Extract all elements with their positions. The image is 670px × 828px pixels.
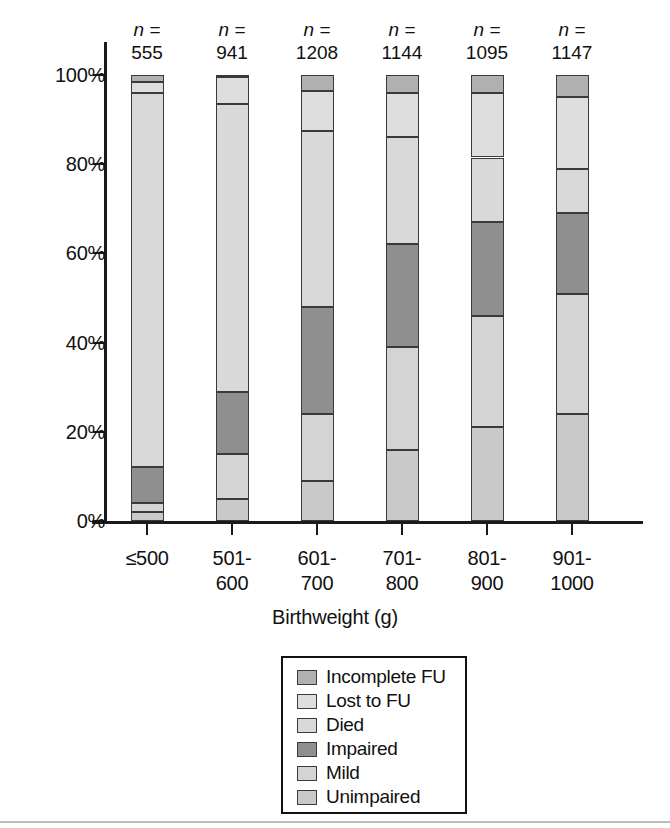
bar-column[interactable] [301,75,334,521]
y-tick-label: 20% [41,420,105,443]
x-axis-line [92,521,643,524]
legend-swatch-icon [297,766,317,781]
bar-column[interactable] [216,75,249,521]
bar-segment-impaired[interactable] [386,244,419,347]
bar-segment-lost-to-fu[interactable] [131,82,164,93]
sample-size-prefix: n = [187,18,277,41]
sample-size-prefix: n = [527,18,617,41]
x-axis-label: ≤500 [102,546,192,571]
bar-segment-lost-to-fu[interactable] [556,97,589,168]
bar-segment-unimpaired[interactable] [556,414,589,521]
bar-segment-died[interactable] [301,131,334,307]
bar-segment-mild[interactable] [131,503,164,512]
x-axis-label-line1: ≤500 [102,546,192,571]
bar-segment-impaired[interactable] [301,307,334,414]
x-axis-label: 601-700 [272,546,362,596]
bar-column[interactable] [471,75,504,521]
x-axis-label-line2: 600 [187,571,277,596]
y-tick-label: 40% [41,331,105,354]
sample-size-label: n =1208 [272,18,362,64]
bar-segment-died[interactable] [471,158,504,223]
legend-item-unimpaired[interactable]: Unimpaired [297,785,465,809]
sample-size-prefix: n = [357,18,447,41]
bar-segment-died[interactable] [131,93,164,468]
bar-segment-incomplete-fu[interactable] [556,75,589,97]
bar-segment-impaired[interactable] [471,222,504,316]
y-axis-line [104,42,107,523]
sample-size-prefix: n = [102,18,192,41]
x-axis-label: 701-800 [357,546,447,596]
x-axis-label: 901-1000 [527,546,617,596]
y-tick-label: 0% [41,510,105,533]
legend-item-incomplete-fu[interactable]: Incomplete FU [297,665,465,689]
legend-swatch-icon [297,718,317,733]
bar-segment-unimpaired[interactable] [301,481,334,521]
x-axis-label: 801-900 [442,546,532,596]
bar-column[interactable] [386,75,419,521]
legend-item-impaired[interactable]: Impaired [297,737,465,761]
bar-segment-lost-to-fu[interactable] [471,93,504,158]
legend-item-lost-to-fu[interactable]: Lost to FU [297,689,465,713]
legend-item-label: Impaired [326,738,398,760]
x-axis-label-line1: 901- [527,546,617,571]
legend-item-label: Mild [326,762,360,784]
sample-size-value: 941 [187,41,277,64]
x-tick [401,523,403,535]
sample-size-label: n =555 [102,18,192,64]
legend: Incomplete FULost to FUDiedImpairedMildU… [281,656,467,814]
bar-segment-mild[interactable] [301,414,334,481]
bar-segment-incomplete-fu[interactable] [131,75,164,82]
stacked-bar-chart-figure: 0%20%40%60%80%100% n =555n =941n =1208n … [0,0,670,828]
y-tick-label: 80% [41,153,105,176]
sample-size-value: 1147 [527,41,617,64]
bar-segment-impaired[interactable] [131,467,164,503]
legend-item-label: Unimpaired [326,786,420,808]
bar-segment-unimpaired[interactable] [386,450,419,521]
sample-size-prefix: n = [272,18,362,41]
bar-column[interactable] [556,75,589,521]
bar-segment-lost-to-fu[interactable] [301,91,334,131]
bar-segment-unimpaired[interactable] [131,512,164,521]
bar-segment-lost-to-fu[interactable] [216,77,249,104]
x-axis-label-line1: 501- [187,546,277,571]
bar-segment-unimpaired[interactable] [216,499,249,521]
bar-segment-incomplete-fu[interactable] [216,75,249,77]
sample-size-value: 1144 [357,41,447,64]
bar-segment-unimpaired[interactable] [471,427,504,521]
x-tick [231,523,233,535]
x-tick [486,523,488,535]
legend-item-label: Incomplete FU [326,666,446,688]
bar-segment-incomplete-fu[interactable] [301,75,334,91]
bar-segment-died[interactable] [386,137,419,244]
legend-item-label: Died [326,714,364,736]
bar-segment-died[interactable] [216,104,249,392]
sample-size-label: n =1147 [527,18,617,64]
x-axis-label: 501-600 [187,546,277,596]
bar-segment-mild[interactable] [556,294,589,414]
sample-size-prefix: n = [442,18,532,41]
legend-item-died[interactable]: Died [297,713,465,737]
x-axis-label-line1: 801- [442,546,532,571]
legend-swatch-icon [297,694,317,709]
bar-segment-mild[interactable] [216,454,249,499]
y-tick-label: 100% [41,64,105,87]
y-tick-label: 60% [41,242,105,265]
x-axis-label-line2: 1000 [527,571,617,596]
legend-item-mild[interactable]: Mild [297,761,465,785]
x-axis-title: Birthweight (g) [0,606,670,629]
bar-segment-died[interactable] [556,169,589,214]
bar-column[interactable] [131,75,164,521]
bar-segment-mild[interactable] [471,316,504,428]
bar-segment-incomplete-fu[interactable] [471,75,504,93]
bar-segment-impaired[interactable] [216,392,249,454]
x-axis-label-line1: 601- [272,546,362,571]
x-tick [571,523,573,535]
x-axis-label-line1: 701- [357,546,447,571]
legend-item-label: Lost to FU [326,690,411,712]
bar-segment-incomplete-fu[interactable] [386,75,419,93]
bar-segment-lost-to-fu[interactable] [386,93,419,138]
bar-segment-mild[interactable] [386,347,419,450]
sample-size-label: n =941 [187,18,277,64]
bar-segment-impaired[interactable] [556,213,589,293]
sample-size-value: 555 [102,41,192,64]
